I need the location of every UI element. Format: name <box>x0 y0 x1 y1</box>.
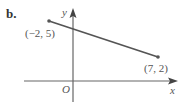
coordinate-diagram: b. x y O (−2, 5) (7, 2) <box>0 0 187 108</box>
part-label: b. <box>6 6 16 21</box>
start-point <box>47 19 51 23</box>
end-point <box>156 55 160 59</box>
origin-label: O <box>62 83 70 95</box>
start-point-label: (−2, 5) <box>25 27 55 40</box>
end-point-label: (7, 2) <box>144 62 168 75</box>
x-axis <box>24 78 178 85</box>
y-axis <box>70 8 77 102</box>
y-axis-label: y <box>61 6 67 18</box>
x-axis-label: x <box>169 84 175 96</box>
line-segment <box>47 19 160 59</box>
